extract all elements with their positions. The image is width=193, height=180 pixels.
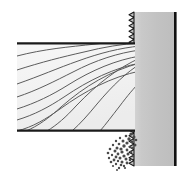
illustration-canvas xyxy=(0,0,193,180)
saw-cutting-wood-illustration xyxy=(0,0,193,180)
blade-body xyxy=(134,12,176,166)
wood-block-face xyxy=(17,43,135,131)
saw-blade xyxy=(129,12,177,166)
wood-block xyxy=(17,40,140,131)
blade-back-edge xyxy=(174,12,177,166)
